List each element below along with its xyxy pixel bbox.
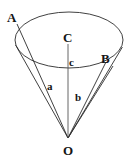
vertex-label-o: O	[63, 144, 73, 157]
edge-label-c: c	[69, 57, 74, 68]
slant-edge-a	[17, 24, 68, 138]
cone-diagram: A B C O a b c	[0, 0, 133, 164]
edge-label-b: b	[75, 92, 81, 103]
cone-generatrix-right-inner	[68, 62, 106, 138]
vertex-label-b: B	[101, 52, 110, 65]
cone-geometry-svg	[0, 0, 133, 164]
vertex-label-a: A	[7, 11, 16, 24]
vertex-label-c: C	[63, 31, 72, 44]
cone-silhouette-left	[16, 45, 68, 138]
edge-label-a: a	[47, 81, 53, 92]
